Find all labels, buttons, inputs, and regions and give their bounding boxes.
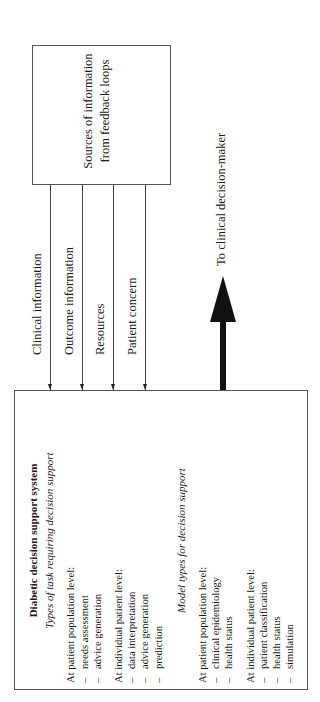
list-item: –data interpretation	[125, 392, 138, 689]
group-label: At patient population level:	[196, 392, 209, 689]
dss-title: Diabetic decision support system	[27, 392, 40, 689]
list-item: –prediction	[152, 392, 165, 689]
sources-label-line-2: from feedback loops	[97, 50, 114, 172]
flow-label-outcome-information: Outcome information	[62, 247, 77, 355]
dss-content: Diabetic decision support system Types o…	[15, 392, 307, 689]
flow-line-resources	[113, 184, 114, 390]
group-label: At patient population level:	[64, 392, 77, 689]
list-item: –needs assessment	[78, 392, 91, 689]
flow-label-patient-concern: Patient concern	[125, 278, 140, 355]
sources-label-line-1: Sources of information	[80, 50, 97, 172]
section-heading-model-types: Model types for decision support	[175, 392, 188, 689]
flow-label-resources: Resources	[93, 304, 108, 355]
sources-label: Sources of information from feedback loo…	[80, 50, 114, 172]
list-item: –simulation	[283, 392, 296, 689]
list-item: –health status	[270, 392, 283, 689]
section-heading-task-types: Types of task requiring decision support	[43, 392, 56, 689]
list-item: –advice generation	[138, 392, 151, 689]
list-item: –patient classification	[257, 392, 270, 689]
flow-line-patient-concern	[145, 184, 146, 390]
flow-label-clinical-information: Clinical information	[30, 253, 45, 355]
output-arrow-shaft	[220, 320, 226, 391]
group-label: At individual patient level:	[112, 392, 125, 689]
output-arrow-label: To clinical decision-maker	[214, 133, 229, 266]
output-arrowhead-icon	[210, 276, 236, 322]
list-item: –health status	[222, 392, 235, 689]
list-item: –clinical epidemiology	[209, 392, 222, 689]
list-item: –advice generation	[91, 392, 104, 689]
flow-line-clinical-information	[50, 184, 51, 390]
flow-line-outcome-information	[82, 184, 83, 390]
group-label: At individual patient level:	[244, 392, 257, 689]
